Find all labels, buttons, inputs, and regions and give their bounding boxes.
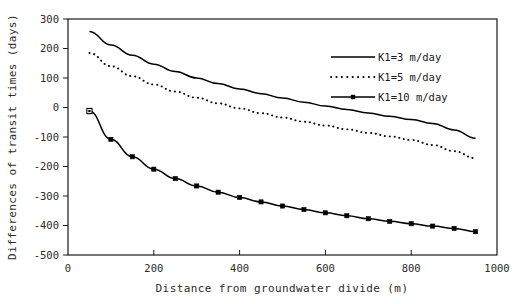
data-point-marker [109,137,113,141]
data-point-marker [195,184,199,188]
x-axis-title: Distance from groundwater divide (m) [156,282,409,295]
data-point-marker [366,217,370,221]
y-tick-label: -100 [34,131,59,143]
chart-figure: 02004006008001000 -500-400-300-200-10001… [0,0,521,304]
data-point-marker [431,224,435,228]
data-point-marker [388,219,392,223]
x-tick-label: 200 [144,262,163,274]
x-tick-label: 0 [65,262,71,274]
legend-label: K1=10 m/day [378,91,448,103]
y-tick-label: -500 [34,249,59,261]
data-point-marker [409,222,413,226]
data-point-marker-first-core [88,110,90,112]
data-point-marker [280,204,284,208]
data-point-marker [238,195,242,199]
data-point-marker [302,207,306,211]
data-point-marker [152,167,156,171]
y-tick-label: -400 [34,219,59,231]
legend-label: K1=5 m/day [378,71,441,83]
x-tick-label: 600 [316,262,335,274]
x-tick-label: 1000 [484,262,509,274]
data-point-marker [130,155,134,159]
x-tick-label: 800 [402,262,421,274]
y-tick-label: -300 [34,190,59,202]
data-point-marker [345,214,349,218]
y-tick-label: 100 [40,72,59,84]
y-tick-label: 0 [53,101,59,113]
data-point-marker [173,177,177,181]
transit-time-difference-chart: 02004006008001000 -500-400-300-200-10001… [0,0,521,304]
y-tick-label: -200 [34,160,59,172]
data-point-marker [259,200,263,204]
data-point-marker [473,230,477,234]
y-axis-title: Differences of transit times (days) [6,14,19,260]
data-point-marker [323,211,327,215]
data-point-marker [216,190,220,194]
legend-marker-sample [351,95,355,99]
y-tick-label: 200 [40,42,59,54]
x-tick-label: 400 [230,262,249,274]
data-point-marker [452,226,456,230]
legend-label: K1=3 m/day [378,51,441,63]
y-tick-label: 300 [40,13,59,25]
chart-background [0,0,521,304]
